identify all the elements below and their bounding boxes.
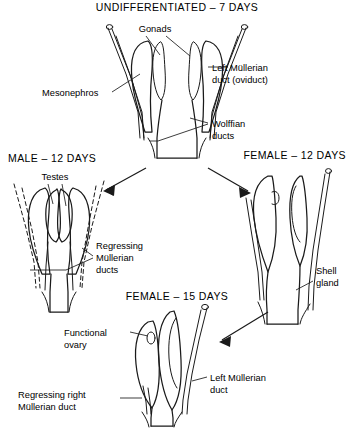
label-wolffian-ducts-line2: ducts bbox=[212, 131, 235, 141]
stage-title-male-12-days: MALE – 12 DAYS bbox=[8, 152, 96, 164]
label-mesonephros: Mesonephros bbox=[42, 88, 99, 98]
canvas-background bbox=[0, 0, 354, 430]
stage-title-undifferentiated: UNDIFFERENTIATED – 7 DAYS bbox=[96, 1, 258, 13]
label-left-mullerian-duct-line1: Left Müllerian bbox=[212, 63, 268, 73]
label-functional-ovary-line2: ovary bbox=[64, 340, 87, 350]
label-testes: Testes bbox=[42, 172, 69, 182]
label-left-mullerian-duct-female-15-line1: Left Müllerian bbox=[210, 373, 266, 383]
label-functional-ovary-line1: Functional bbox=[64, 328, 107, 338]
label-wolffian-ducts-line1: Wolffian bbox=[212, 119, 245, 129]
reproductive-tract-differentiation-diagram: UNDIFFERENTIATED – 7 DAYS bbox=[0, 0, 354, 430]
label-shell-gland-line2: gland bbox=[316, 278, 339, 288]
label-regressing-mullerian-ducts-line1: Regressing bbox=[96, 241, 143, 251]
label-gonads: Gonads bbox=[139, 24, 172, 34]
label-shell-gland-line1: Shell bbox=[316, 266, 337, 276]
stage-title-female-12-days: FEMALE – 12 DAYS bbox=[244, 149, 347, 161]
label-regressing-right-mullerian-duct-line1: Regressing right bbox=[18, 390, 86, 400]
label-left-mullerian-duct-female-15-line2: duct bbox=[210, 385, 228, 395]
label-left-mullerian-duct-line2: duct (oviduct) bbox=[212, 75, 268, 85]
stage-title-female-15-days: FEMALE – 15 DAYS bbox=[126, 290, 229, 302]
label-regressing-mullerian-ducts-line3: ducts bbox=[96, 265, 119, 275]
label-regressing-right-mullerian-duct-line2: Müllerian duct bbox=[18, 402, 76, 412]
label-regressing-mullerian-ducts-line2: Müllerian bbox=[96, 253, 134, 263]
